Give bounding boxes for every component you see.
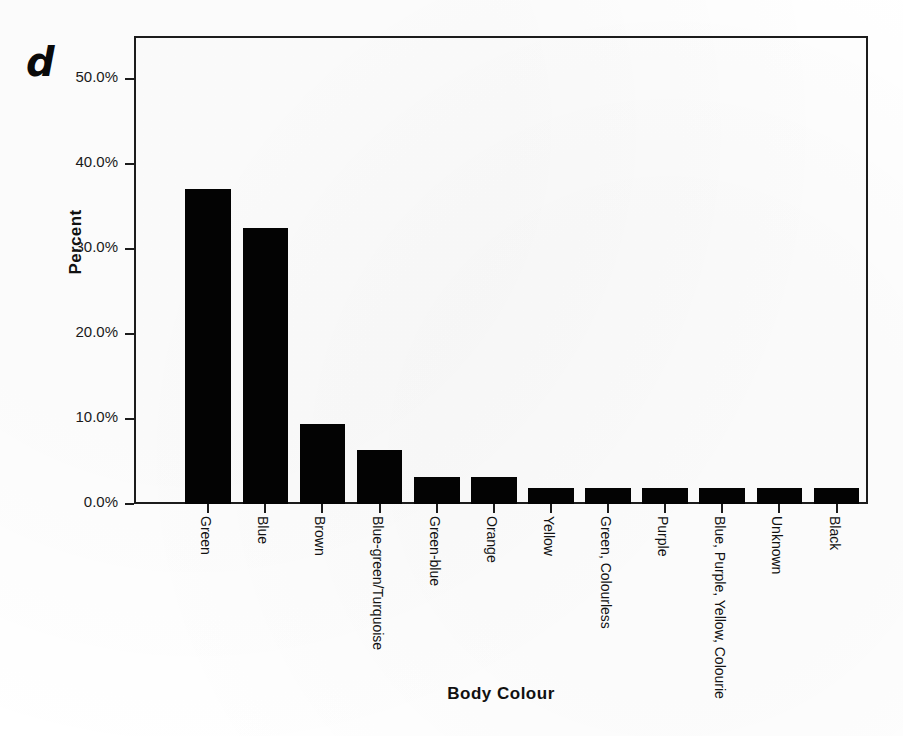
y-axis-tick-mark	[125, 503, 134, 505]
y-axis-tick-mark	[125, 248, 134, 250]
x-axis-tick-label: Blue-green/Turquoise	[371, 516, 385, 650]
bar	[528, 488, 574, 504]
x-axis-tick-label: Green	[199, 516, 213, 555]
x-axis-tick-label: Green, Colourless	[599, 516, 613, 629]
y-axis-tick-mark	[125, 78, 134, 80]
y-axis-tick-mark	[125, 418, 134, 420]
x-axis-tick-mark	[607, 504, 609, 513]
x-axis-tick-mark	[836, 504, 838, 513]
y-axis-tick-label: 40.0%	[75, 153, 118, 170]
bar	[357, 450, 403, 504]
bar	[814, 488, 860, 504]
x-axis-tick-label: Black	[828, 516, 842, 550]
bar	[585, 488, 631, 504]
x-axis-tick-label: Blue	[256, 516, 270, 544]
x-axis-tick-label: Yellow	[542, 516, 556, 556]
bar	[185, 189, 231, 504]
bar	[642, 488, 688, 504]
x-axis-tick-mark	[664, 504, 666, 513]
x-axis-tick-label: Green-blue	[428, 516, 442, 586]
x-axis-tick-mark	[436, 504, 438, 513]
x-axis-tick-mark	[721, 504, 723, 513]
x-axis-tick-label: Purple	[656, 516, 670, 556]
x-axis-tick-mark	[778, 504, 780, 513]
y-axis-tick-label: 10.0%	[75, 408, 118, 425]
x-axis-tick-mark	[264, 504, 266, 513]
x-axis-tick-label: Blue, Purple, Yellow, Colourie	[713, 516, 727, 699]
bar	[699, 488, 745, 504]
bars-layer	[134, 36, 868, 504]
x-axis-tick-label: Unknown	[770, 516, 784, 574]
bar	[757, 488, 803, 504]
bar	[243, 228, 289, 504]
y-axis-tick-label: 30.0%	[75, 238, 118, 255]
y-axis-tick-label: 50.0%	[75, 68, 118, 85]
x-axis-tick-label: Orange	[485, 516, 499, 563]
bar	[471, 477, 517, 504]
x-axis-tick-mark	[207, 504, 209, 513]
panel-letter: d	[26, 42, 54, 82]
x-axis-tick-mark	[379, 504, 381, 513]
x-axis-title: Body Colour	[134, 684, 868, 704]
x-axis-tick-mark	[321, 504, 323, 513]
bar	[300, 424, 346, 504]
bar-chart-figure: d Percent 0.0%10.0%20.0%30.0%40.0%50.0% …	[0, 0, 903, 736]
x-axis-tick-mark	[550, 504, 552, 513]
y-axis-tick-label: 20.0%	[75, 323, 118, 340]
y-axis-tick-label: 0.0%	[84, 493, 118, 510]
x-axis-tick-label: Brown	[313, 516, 327, 556]
x-axis-tick-mark	[493, 504, 495, 513]
y-axis-tick-mark	[125, 163, 134, 165]
y-axis-tick-mark	[125, 333, 134, 335]
bar	[414, 477, 460, 504]
